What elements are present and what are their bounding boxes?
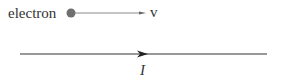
electron-dot <box>67 9 76 18</box>
velocity-label: v <box>150 5 158 20</box>
velocity-arrowhead-icon <box>139 12 146 15</box>
current-label: I <box>140 63 145 78</box>
